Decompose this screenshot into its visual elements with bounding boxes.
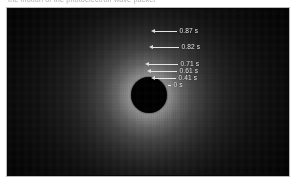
leader-line xyxy=(149,64,178,65)
arrow-left-icon xyxy=(151,76,155,80)
time-label: 0 s xyxy=(171,81,183,89)
time-label: 0.82 s xyxy=(179,43,200,51)
time-annotation: 0 s xyxy=(168,81,183,89)
figure-frame: 0.87 s0.82 s0.71 s0.61 s0.41 s0 s xyxy=(6,7,290,177)
caption-sliver: the motion of the photoelectron wave pac… xyxy=(8,0,288,4)
time-annotation: 0.82 s xyxy=(149,43,200,51)
annotation-layer: 0.87 s0.82 s0.71 s0.61 s0.41 s0 s xyxy=(8,9,288,175)
arrow-left-icon xyxy=(147,69,151,73)
time-annotation: 0.87 s xyxy=(151,27,198,35)
arrow-left-icon xyxy=(151,29,155,33)
figure-image: 0.87 s0.82 s0.71 s0.61 s0.41 s0 s xyxy=(8,9,288,175)
leader-line xyxy=(151,71,177,72)
leader-line xyxy=(155,78,176,79)
time-label: 0.87 s xyxy=(177,27,198,35)
arrow-left-icon xyxy=(145,62,149,66)
leader-line xyxy=(153,47,179,48)
leader-line xyxy=(155,31,177,32)
arrow-left-icon xyxy=(149,45,153,49)
